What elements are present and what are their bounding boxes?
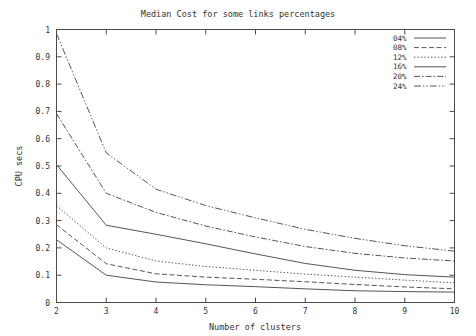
y-axis-label: CPU secs [14, 146, 24, 187]
chart-legend: 04%08%12%16%20%24% [393, 34, 446, 91]
x-tick-label: 3 [104, 307, 109, 316]
x-tick-label: 10 [450, 307, 460, 316]
series-line-20pct [57, 114, 455, 261]
x-tick-label: 9 [402, 307, 407, 316]
y-tick-label: 0 [45, 299, 50, 308]
line-chart: Median Cost for some links percentages 0… [0, 0, 476, 336]
y-tick-label: 1 [45, 26, 50, 35]
x-tick-label: 6 [253, 307, 258, 316]
series-line-04pct [57, 240, 455, 292]
legend-label-24pct: 24% [393, 82, 407, 91]
y-tick-label: 0.7 [36, 107, 51, 116]
y-tick-label: 0.2 [36, 244, 51, 253]
x-tick-label: 7 [303, 307, 308, 316]
x-axis-tick-labels: 2345678910 [54, 307, 459, 316]
x-tick-label: 4 [154, 307, 159, 316]
y-tick-label: 0.1 [36, 271, 51, 280]
chart-title: Median Cost for some links percentages [141, 9, 335, 19]
legend-label-04pct: 04% [393, 34, 407, 43]
x-tick-label: 5 [203, 307, 208, 316]
series-line-16pct [57, 165, 455, 277]
legend-label-20pct: 20% [393, 72, 407, 81]
y-tick-label: 0.4 [36, 189, 51, 198]
y-tick-label: 0.5 [36, 162, 51, 171]
y-tick-label: 0.3 [36, 217, 51, 226]
y-tick-label: 0.6 [36, 135, 51, 144]
legend-label-12pct: 12% [393, 53, 407, 62]
y-axis-tick-labels: 00.10.20.30.40.50.60.70.80.91 [36, 26, 51, 308]
y-tick-label: 0.8 [36, 80, 51, 89]
x-tick-label: 8 [353, 307, 358, 316]
legend-label-16pct: 16% [393, 62, 407, 71]
series-line-08pct [57, 225, 455, 289]
x-axis-label: Number of clusters [209, 322, 301, 332]
x-tick-label: 2 [54, 307, 59, 316]
y-tick-label: 0.9 [36, 53, 51, 62]
legend-label-08pct: 08% [393, 43, 407, 52]
chart-container: Median Cost for some links percentages 0… [0, 0, 476, 336]
